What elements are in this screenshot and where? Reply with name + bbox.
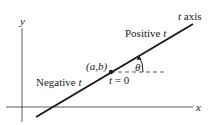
- t-axis-line: [36, 24, 193, 117]
- point-label: (a,b): [86, 61, 107, 72]
- negative-t-label: Negative t: [36, 77, 82, 88]
- x-axis-label: x: [196, 102, 201, 113]
- parametric-line-diagram: y x t axis Positive t Negative t (a,b) t…: [0, 0, 213, 125]
- theta-label: θ: [135, 62, 140, 73]
- y-axis-label: y: [20, 16, 25, 27]
- t-axis-label: t axis: [178, 11, 202, 22]
- positive-t-label: Positive t: [125, 28, 166, 39]
- t-zero-label: t = 0: [109, 75, 129, 86]
